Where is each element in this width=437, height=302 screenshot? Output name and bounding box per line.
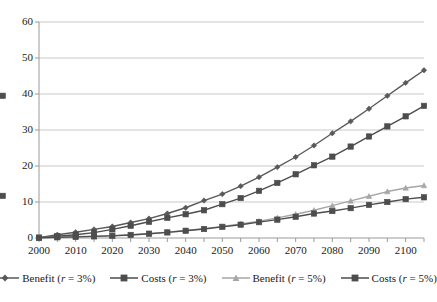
legend-label-suffix: = 3%) bbox=[176, 272, 206, 284]
series-3-point-2080 bbox=[330, 208, 335, 213]
y-axis-label-60: 60 bbox=[2, 15, 33, 27]
x-axis-label-2020: 2020 bbox=[92, 244, 132, 256]
legend-label-prefix: Benefit ( bbox=[253, 272, 292, 284]
legend-item-1[interactable]: Costs (r = 3%) bbox=[109, 272, 206, 284]
y-axis-label-40: 40 bbox=[2, 87, 33, 99]
legend-item-3[interactable]: Costs (r = 5%) bbox=[340, 272, 437, 284]
series-3-point-2060 bbox=[256, 219, 261, 224]
series-3-point-2025 bbox=[128, 232, 133, 237]
series-1-point-2065 bbox=[275, 180, 280, 185]
x-axis-label-2080: 2080 bbox=[312, 244, 352, 256]
series-3-point-2045 bbox=[201, 226, 206, 231]
y-axis-label-30: 30 bbox=[2, 123, 33, 135]
series-0-point-2055 bbox=[238, 183, 243, 188]
series-1-point-2105 bbox=[421, 103, 426, 108]
legend-marker-square-icon bbox=[340, 272, 370, 284]
x-axis-label-2050: 2050 bbox=[202, 244, 242, 256]
legend-label-suffix: = 3%) bbox=[65, 272, 95, 284]
legend-label-prefix: Costs ( bbox=[372, 272, 403, 284]
series-1-point-2030 bbox=[146, 219, 151, 224]
series-3-point-2015 bbox=[91, 234, 96, 239]
series-3-point-2075 bbox=[311, 211, 316, 216]
series-1-point-2080 bbox=[330, 154, 335, 159]
series-3-point-2100 bbox=[403, 196, 408, 201]
series-1-point-2035 bbox=[165, 215, 170, 220]
x-axis-label-2010: 2010 bbox=[56, 244, 96, 256]
series-1-point-2100 bbox=[403, 114, 408, 119]
series-3-point-2065 bbox=[275, 217, 280, 222]
x-axis-label-2060: 2060 bbox=[239, 244, 279, 256]
legend-label-suffix: = 5%) bbox=[407, 272, 437, 284]
series-0-point-2060 bbox=[256, 174, 261, 179]
legend-label-2: Benefit (r = 5%) bbox=[253, 272, 326, 284]
series-3-point-2050 bbox=[220, 224, 225, 229]
series-1-point-2060 bbox=[256, 188, 261, 193]
legend-marker-triangle-icon bbox=[221, 272, 251, 284]
series-3-point-2000 bbox=[36, 235, 41, 240]
y-axis-label-50: 50 bbox=[2, 51, 33, 63]
legend-label-prefix: Costs ( bbox=[141, 272, 172, 284]
x-axis-label-2000: 2000 bbox=[19, 244, 59, 256]
legend-label-3: Costs (r = 5%) bbox=[372, 272, 437, 284]
series-1-point-2075 bbox=[311, 163, 316, 168]
chart-legend: Benefit (r = 3%)Costs (r = 3%)Benefit (r… bbox=[0, 272, 427, 284]
series-3-point-2005 bbox=[55, 235, 60, 240]
series-1-point-2040 bbox=[183, 212, 188, 217]
series-1-point-2025 bbox=[128, 223, 133, 228]
series-1-point-2095 bbox=[385, 124, 390, 129]
y-axis-label-20: 20 bbox=[2, 159, 33, 171]
legend-item-0[interactable]: Benefit (r = 3%) bbox=[0, 272, 95, 284]
y-axis-label-0: 0 bbox=[2, 231, 33, 243]
series-3-point-2055 bbox=[238, 222, 243, 227]
series-3-point-2095 bbox=[385, 199, 390, 204]
series-3-point-2070 bbox=[293, 214, 298, 219]
series-3-point-2090 bbox=[366, 202, 371, 207]
series-1-point-2050 bbox=[220, 201, 225, 206]
x-axis-label-2030: 2030 bbox=[129, 244, 169, 256]
series-1-point-2055 bbox=[238, 195, 243, 200]
series-1-point-2090 bbox=[366, 134, 371, 139]
x-axis-label-2040: 2040 bbox=[166, 244, 206, 256]
series-3-point-2030 bbox=[146, 231, 151, 236]
x-axis-label-2070: 2070 bbox=[276, 244, 316, 256]
series-0-point-2065 bbox=[275, 164, 280, 169]
series-3-point-2085 bbox=[348, 205, 353, 210]
x-axis-label-2090: 2090 bbox=[349, 244, 389, 256]
legend-marker-diamond-icon bbox=[0, 272, 20, 284]
series-3-point-2010 bbox=[73, 234, 78, 239]
series-line-1 bbox=[39, 106, 424, 238]
series-1-point-2070 bbox=[293, 172, 298, 177]
series-1-point-2045 bbox=[201, 208, 206, 213]
series-0-point-2040 bbox=[183, 205, 188, 210]
series-line-0 bbox=[39, 70, 424, 237]
series-3-point-2040 bbox=[183, 228, 188, 233]
series-3-point-2020 bbox=[110, 233, 115, 238]
y-axis-label-10: 10 bbox=[2, 195, 33, 207]
series-0-point-2050 bbox=[220, 191, 225, 196]
series-1-point-2085 bbox=[348, 144, 353, 149]
legend-label-prefix: Benefit ( bbox=[22, 272, 61, 284]
x-axis-label-2100: 2100 bbox=[386, 244, 426, 256]
legend-marker-square-icon bbox=[109, 272, 139, 284]
series-3-point-2035 bbox=[165, 230, 170, 235]
legend-item-2[interactable]: Benefit (r = 5%) bbox=[221, 272, 326, 284]
series-1-point-2020 bbox=[110, 227, 115, 232]
legend-label-suffix: = 5%) bbox=[296, 272, 326, 284]
legend-label-1: Costs (r = 3%) bbox=[141, 272, 206, 284]
legend-label-0: Benefit (r = 3%) bbox=[22, 272, 95, 284]
series-3-point-2105 bbox=[421, 195, 426, 200]
